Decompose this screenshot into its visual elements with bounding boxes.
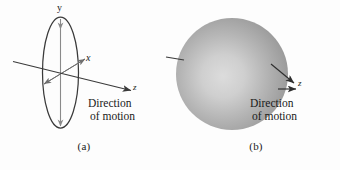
panel-a-ellipse: y x z Direction of motion (a)	[0, 0, 170, 170]
direction-of-motion-label-a: Direction of motion	[88, 97, 135, 123]
panel-b-sphere: z Direction of motion (b)	[170, 0, 340, 170]
direction-line-1: Direction	[250, 97, 297, 110]
axis-label-z: z	[133, 82, 137, 92]
figure-container: y x z Direction of motion (a)	[0, 0, 340, 170]
caption-a: (a)	[0, 140, 169, 152]
direction-line-2: of motion	[88, 110, 135, 123]
caption-b: (b)	[171, 140, 340, 152]
axis-label-y: y	[57, 2, 62, 13]
axis-label-z: z	[298, 78, 302, 88]
direction-of-motion-label-b: Direction of motion	[250, 97, 297, 123]
direction-line-2: of motion	[250, 110, 297, 123]
axis-label-x: x	[86, 52, 90, 63]
z-axis-line	[13, 62, 131, 91]
direction-line-1: Direction	[88, 97, 135, 110]
